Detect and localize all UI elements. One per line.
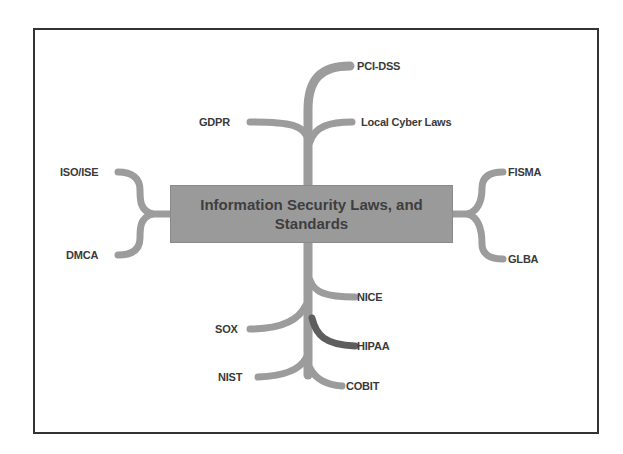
central-topic: Information Security Laws, and Standards xyxy=(170,185,453,243)
branch-fisma xyxy=(468,172,503,214)
node-iso-ise: ISO/ISE xyxy=(60,166,98,179)
node-pci-dss: PCI-DSS xyxy=(357,60,400,73)
branch-hipaa xyxy=(312,318,355,346)
branch-dmca xyxy=(118,214,152,255)
branch-sox xyxy=(250,305,306,329)
central-topic-label: Information Security Laws, and Standards xyxy=(181,195,442,233)
branch-local-cyber-laws xyxy=(310,122,352,142)
node-nice: NICE xyxy=(357,291,382,304)
node-cobit: COBIT xyxy=(346,380,379,393)
node-nist: NIST xyxy=(218,371,242,384)
node-dmca: DMCA xyxy=(66,249,98,262)
node-fisma: FISMA xyxy=(508,166,541,179)
branch-gdpr xyxy=(250,122,308,140)
branch-nist xyxy=(258,358,306,377)
branch-cobit xyxy=(310,368,342,386)
branch-nice xyxy=(310,280,355,297)
node-hipaa: HIPAA xyxy=(357,340,389,353)
node-sox: SOX xyxy=(215,323,238,336)
branch-glba xyxy=(468,214,503,259)
node-gdpr: GDPR xyxy=(199,116,230,129)
branch-iso-ise xyxy=(118,172,152,214)
node-glba: GLBA xyxy=(508,253,538,266)
node-local-cyber-laws: Local Cyber Laws xyxy=(361,116,451,129)
